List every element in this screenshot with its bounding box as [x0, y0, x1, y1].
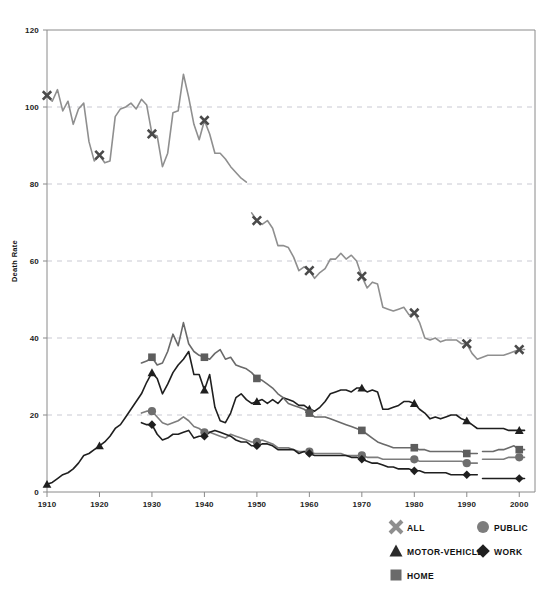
y-tick-label: 0 — [34, 488, 39, 497]
x-marker — [95, 151, 103, 159]
y-axis-title: Death Rate — [10, 240, 19, 282]
x-tick-label: 1960 — [300, 500, 319, 509]
x-marker-icon — [390, 521, 402, 533]
diamond-marker — [410, 467, 419, 476]
x-marker — [305, 266, 313, 274]
line-chart-svg: 020406080100120 191019201930194019501960… — [0, 0, 556, 599]
circle-marker — [463, 459, 471, 467]
square-marker — [463, 450, 471, 458]
legend-item-all[interactable]: ALL — [390, 521, 425, 533]
diamond-marker — [148, 420, 157, 429]
y-tick-label: 40 — [30, 334, 40, 343]
legend-item-public[interactable]: PUBLIC — [477, 521, 528, 533]
circle-marker-icon — [477, 521, 489, 533]
series-line-all — [252, 213, 525, 359]
square-marker-icon — [391, 570, 402, 581]
triangle-marker — [148, 368, 157, 376]
series-line-motor-vehicle — [47, 351, 525, 484]
y-tick-label: 80 — [30, 180, 40, 189]
legend-item-motor-vehicle[interactable]: MOTOR-VEHICLE — [390, 545, 484, 557]
square-marker — [515, 446, 523, 454]
x-tick-label: 1990 — [457, 500, 476, 509]
square-marker — [411, 444, 419, 452]
x-tick-label: 2000 — [510, 500, 529, 509]
legend-label: MOTOR-VEHICLE — [407, 547, 483, 557]
x-tick-labels-group: 1910192019301940195019601970198019902000 — [38, 500, 529, 509]
y-tick-labels-group: 020406080100120 — [25, 26, 39, 497]
triangle-marker — [200, 386, 209, 394]
x-tick-label: 1940 — [195, 500, 214, 509]
x-marker — [410, 309, 418, 317]
square-marker — [358, 427, 366, 435]
x-tick-label: 1950 — [248, 500, 267, 509]
triangle-marker-icon — [390, 545, 403, 557]
circle-marker — [410, 455, 418, 463]
legend-group: ALLPUBLICMOTOR-VEHICLEWORKHOME — [390, 521, 529, 581]
legend-label: WORK — [494, 547, 523, 557]
y-tick-label: 60 — [30, 257, 40, 266]
diamond-marker — [515, 474, 524, 483]
square-marker — [253, 375, 261, 383]
y-tick-label: 100 — [25, 103, 39, 112]
x-tick-label: 1970 — [353, 500, 372, 509]
y-axis-title-group: Death Rate — [10, 240, 19, 282]
square-marker — [148, 353, 156, 361]
x-marker — [358, 272, 366, 280]
circle-marker — [148, 407, 156, 415]
chart-container: 020406080100120 191019201930194019501960… — [0, 0, 556, 599]
gridlines-group — [47, 107, 535, 415]
series-line-all — [47, 74, 246, 182]
square-marker — [201, 353, 209, 361]
x-tick-label: 1980 — [405, 500, 424, 509]
legend-label: PUBLIC — [494, 523, 528, 533]
x-tick-label: 1930 — [143, 500, 162, 509]
legend-label: HOME — [407, 571, 434, 581]
diamond-marker — [462, 470, 471, 479]
legend-item-home[interactable]: HOME — [391, 570, 435, 581]
legend-item-work[interactable]: WORK — [476, 544, 523, 558]
x-tick-label: 1910 — [38, 500, 57, 509]
x-tick-label: 1920 — [90, 500, 109, 509]
series-group — [47, 74, 525, 484]
circle-marker — [515, 453, 523, 461]
y-tick-label: 20 — [30, 411, 40, 420]
x-marker — [253, 216, 261, 224]
y-tick-label: 120 — [25, 26, 39, 35]
square-marker — [306, 409, 314, 417]
legend-label: ALL — [407, 523, 425, 533]
